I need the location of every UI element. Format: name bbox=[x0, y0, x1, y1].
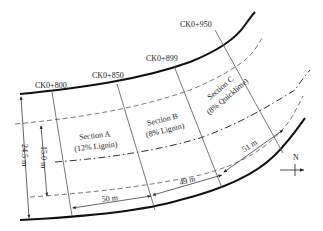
station-label-850: CK0+850 bbox=[92, 71, 124, 80]
svg-text:Section A: Section A bbox=[79, 129, 111, 141]
station-label-950: CK0+950 bbox=[180, 20, 212, 29]
station-label-800: CK0+800 bbox=[35, 81, 67, 90]
station-line-800 bbox=[52, 92, 72, 216]
section-c-label: Section C (8% Quicklime) bbox=[198, 68, 251, 117]
road-section-diagram: CK0+800 CK0+850 CK0+899 CK0+950 Section … bbox=[0, 0, 323, 231]
dimension-inner-width-label: 15.0 m bbox=[39, 146, 48, 169]
section-a-label: Section A (12% Lignin) bbox=[73, 129, 119, 153]
station-line-850 bbox=[117, 84, 155, 210]
dimension-length-c bbox=[224, 130, 283, 172]
dimension-length-a-label: 50 m bbox=[101, 193, 119, 204]
svg-text:N: N bbox=[293, 153, 299, 162]
station-label-899: CK0+899 bbox=[146, 54, 178, 63]
svg-text:(12% Lignin): (12% Lignin) bbox=[74, 140, 118, 154]
north-arrow-icon: N bbox=[280, 153, 304, 176]
section-b-label: Section B (8% Lignin) bbox=[142, 110, 185, 139]
dimension-length-b-label: 49 m bbox=[178, 174, 197, 187]
dimension-total-width-label: 24.5 m bbox=[20, 144, 29, 167]
